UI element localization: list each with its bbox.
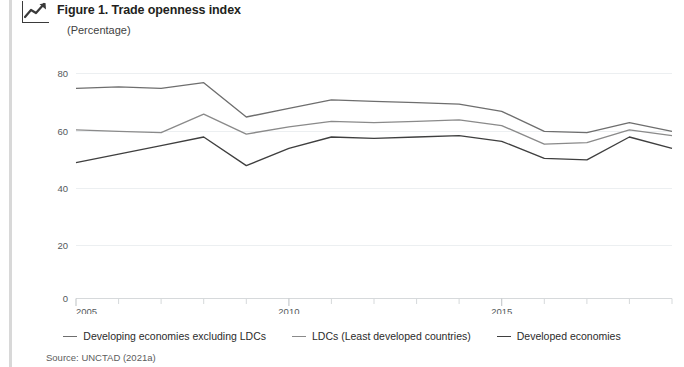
svg-text:80: 80 <box>57 68 68 79</box>
svg-text:60: 60 <box>57 126 68 137</box>
legend-item-ldcs[interactable]: LDCs (Least developed countries) <box>292 330 471 342</box>
figure-header: Figure 1. Trade openness index (Percenta… <box>22 0 676 24</box>
series-line-developing-economies-excluding-ldcs <box>76 83 672 133</box>
line-chart-trend-up-icon <box>22 1 49 23</box>
svg-text:40: 40 <box>57 183 68 194</box>
legend-swatch-icon <box>497 336 511 337</box>
svg-text:2005: 2005 <box>76 306 97 314</box>
legend-item-developing-economies-excluding-ldcs[interactable]: Developing economies excluding LDCs <box>63 330 266 342</box>
legend-swatch-icon <box>292 336 306 337</box>
x-axis-major-ticks <box>76 299 502 307</box>
legend-item-developed-economies[interactable]: Developed economies <box>497 330 621 342</box>
figure-title: Figure 1. Trade openness index <box>57 0 241 19</box>
svg-text:2010: 2010 <box>278 306 299 314</box>
figure-subtitle: (Percentage) <box>67 22 131 38</box>
chart-plot-area: 80 60 40 20 0 <box>0 52 684 314</box>
y-axis-tick-labels: 80 60 40 20 0 <box>57 68 68 304</box>
series-line-ldcs <box>76 114 672 144</box>
trade-openness-line-chart: 80 60 40 20 0 <box>0 52 684 314</box>
chart-legend: Developing economies excluding LDCs LDCs… <box>0 326 684 346</box>
legend-swatch-icon <box>63 336 77 337</box>
series-line-developed-economies <box>76 136 672 166</box>
figure-source-note: Source: UNCTAD (2021a) <box>46 351 156 364</box>
x-axis-tick-labels: 2005 2010 2015 <box>76 306 512 314</box>
figure-title-row: Figure 1. Trade openness index <box>22 0 676 24</box>
svg-text:0: 0 <box>63 293 68 304</box>
svg-text:2015: 2015 <box>491 306 512 314</box>
figure-page: Figure 1. Trade openness index (Percenta… <box>0 0 684 367</box>
svg-text:20: 20 <box>57 240 68 251</box>
legend-label: LDCs (Least developed countries) <box>312 330 471 342</box>
x-axis-minor-ticks <box>119 299 672 305</box>
legend-label: Developed economies <box>517 330 621 342</box>
legend-label: Developing economies excluding LDCs <box>83 330 266 342</box>
